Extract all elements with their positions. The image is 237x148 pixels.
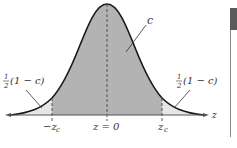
svg-text:(1 − c): (1 − c)	[183, 75, 218, 86]
right-tail-label: 1 2 (1 − c)	[176, 73, 218, 90]
svg-text:(1 − c): (1 − c)	[10, 75, 45, 86]
tail-area-left	[10, 98, 52, 115]
svg-text:1: 1	[177, 73, 181, 81]
pos-critical-label: z c	[157, 121, 168, 134]
side-bar-header	[230, 8, 237, 30]
svg-text:2: 2	[3, 82, 9, 90]
center-z-label: z = 0	[92, 121, 120, 132]
axis-label: z	[211, 110, 217, 120]
right-tail-leader	[174, 90, 190, 108]
center-area-label: c	[147, 14, 153, 27]
tail-area-right	[162, 98, 204, 115]
svg-text:1: 1	[4, 73, 8, 81]
svg-text:z: z	[157, 121, 164, 132]
neg-critical-label: −z c	[43, 121, 60, 134]
svg-text:c: c	[164, 126, 168, 134]
axis-arrow-right-icon	[203, 113, 209, 117]
left-tail-label: 1 2 (1 − c)	[3, 73, 45, 90]
left-tail-leader	[26, 90, 42, 108]
svg-text:2: 2	[176, 82, 182, 90]
axis-arrow-left-icon	[5, 113, 11, 117]
svg-text:c: c	[56, 126, 60, 134]
normal-curve-diagram: c 1 2 (1 − c) 1 2 (1 − c) −z c z = 0 z c…	[0, 0, 237, 148]
